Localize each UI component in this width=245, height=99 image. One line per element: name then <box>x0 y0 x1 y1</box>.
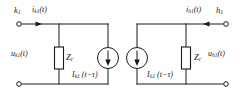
left-source-subscript: k1 <box>75 73 80 79</box>
right-bottom-terminal-dot <box>224 82 229 87</box>
left-source-label: Ik1(t−τ) <box>72 71 98 80</box>
right-impedance-label: Zc <box>194 53 201 63</box>
right-node-label: h1 <box>216 6 223 16</box>
left-current-label: ik1(t) <box>32 6 47 15</box>
right-voltage-label: uh1(t) <box>208 50 225 59</box>
right-top-terminal-dot <box>224 22 229 27</box>
left-voltage-argument: (t) <box>20 49 28 58</box>
left-node-subscript: 1 <box>18 9 21 15</box>
right-source-subscript: h1 <box>150 73 155 79</box>
right-impedance-subscript: c <box>199 56 202 62</box>
right-impedance-box <box>182 47 191 69</box>
left-current-argument: (t) <box>39 5 47 14</box>
left-source-argument: (t−τ) <box>82 70 98 79</box>
right-node-subscript: 1 <box>220 9 223 15</box>
left-voltage-label: uk1(t) <box>11 50 28 59</box>
right-current-argument: (t) <box>194 5 202 14</box>
left-impedance-label: Zc <box>66 53 73 63</box>
left-bottom-terminal-dot <box>17 82 22 87</box>
circuit-figure: k1 ik1(t) uk1(t) Zc Ik1(t−τ) ih1(t) h1 Z… <box>0 0 245 99</box>
right-terminal-current-arrow <box>203 22 210 27</box>
left-top-terminal-dot <box>17 22 22 27</box>
left-node-label: k1 <box>14 6 21 16</box>
left-impedance-subscript: c <box>71 56 74 62</box>
right-source-argument: (t−τ) <box>157 70 173 79</box>
right-voltage-argument: (t) <box>217 49 225 58</box>
left-impedance-box <box>55 47 64 69</box>
right-source-label: Ih1(t−τ) <box>147 71 173 80</box>
left-terminal-current-arrow <box>36 22 43 27</box>
right-current-label: ih1(t) <box>186 6 201 15</box>
